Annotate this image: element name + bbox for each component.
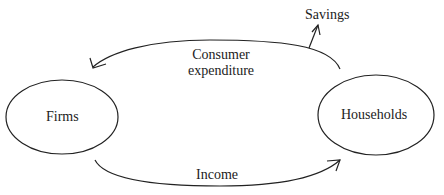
savings-arrow <box>309 25 318 48</box>
savings-label: Savings <box>305 7 349 23</box>
consumer-expenditure-label-line1: Consumer <box>186 47 256 63</box>
income-label: Income <box>196 167 238 183</box>
households-label: Households <box>341 107 407 123</box>
firms-label: Firms <box>46 109 79 125</box>
consumer-expenditure-label-line2: expenditure <box>180 63 262 79</box>
circular-flow-diagram <box>0 0 444 195</box>
